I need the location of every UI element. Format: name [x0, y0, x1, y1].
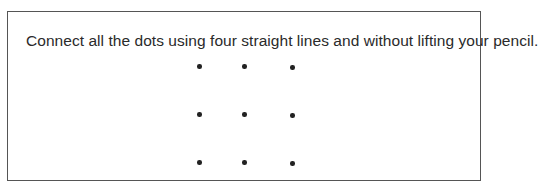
- puzzle-instruction: Connect all the dots using four straight…: [26, 32, 538, 50]
- dot-r3-c1: [197, 160, 202, 165]
- dot-r2-c1: [197, 112, 202, 117]
- dot-r1-c2: [242, 64, 247, 69]
- dot-r2-c3: [290, 113, 295, 118]
- dot-r3-c3: [290, 161, 295, 166]
- dot-r1-c3: [290, 65, 295, 70]
- dot-r3-c2: [242, 160, 247, 165]
- dot-r2-c2: [242, 112, 247, 117]
- dot-r1-c1: [197, 64, 202, 69]
- puzzle-frame: Connect all the dots using four straight…: [7, 11, 481, 181]
